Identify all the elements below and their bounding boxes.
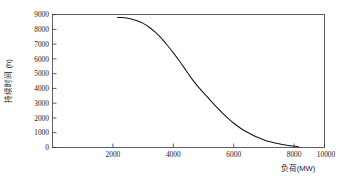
load-duration-curve-chart: 0 1000 2000 3000 4000 5000 6000 7000 800… xyxy=(0,0,342,182)
y-tick-label: 3000 xyxy=(34,99,49,108)
load-duration-curve-line xyxy=(117,17,298,147)
y-tick-label: 9000 xyxy=(34,10,49,19)
y-tick-label: 4000 xyxy=(34,84,49,93)
y-tick-label: 5000 xyxy=(34,69,49,78)
x-tick-label: 6000 xyxy=(226,150,241,159)
x-tick-label: 10000 xyxy=(317,150,336,159)
y-tick-label: 6000 xyxy=(34,55,49,64)
y-tick-label: 1000 xyxy=(34,128,49,137)
plot-frame xyxy=(53,15,325,148)
x-axis-title: 负荷(MW) xyxy=(281,163,316,173)
x-tick-label: 4000 xyxy=(166,150,181,159)
chart-figure: 0 1000 2000 3000 4000 5000 6000 7000 800… xyxy=(0,0,342,182)
x-tick-label: 2000 xyxy=(106,150,121,159)
y-tick-label: 2000 xyxy=(34,114,49,123)
y-tickmarks xyxy=(53,15,57,148)
y-axis-title: 持续时间 (h) xyxy=(3,59,13,103)
x-tick-labels: 2000 4000 6000 8000 10000 xyxy=(106,150,336,159)
y-tick-label: 8000 xyxy=(34,25,49,34)
y-tick-labels: 0 1000 2000 3000 4000 5000 6000 7000 800… xyxy=(34,10,49,152)
x-tick-label: 8000 xyxy=(287,150,302,159)
y-tick-label: 7000 xyxy=(34,40,49,49)
y-tick-label: 0 xyxy=(45,143,49,152)
x-tickmarks xyxy=(113,144,325,148)
